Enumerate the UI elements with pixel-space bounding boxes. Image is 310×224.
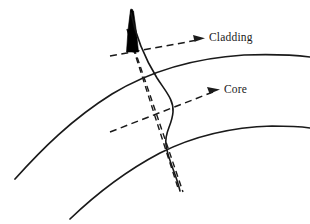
diagram-canvas — [0, 0, 310, 224]
fiber-probe-diagram: Cladding Core — [0, 0, 310, 224]
cladding-label: Cladding — [209, 32, 253, 44]
core-label: Core — [224, 84, 247, 96]
diagram-background — [0, 0, 310, 224]
